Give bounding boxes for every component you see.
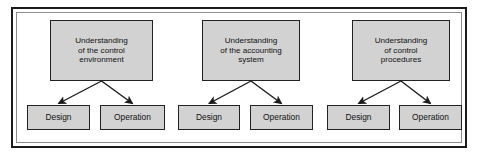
node-label: Operation — [412, 113, 449, 123]
node-label: Design — [196, 113, 222, 123]
node-control-procedures-operation: Operation — [399, 105, 462, 130]
node-label: Operation — [263, 113, 300, 123]
node-label: Understanding of control procedures — [375, 36, 428, 65]
node-label: Understanding of the control environment — [75, 36, 128, 65]
node-control-procedures-design: Design — [327, 105, 390, 130]
node-accounting-system-design: Design — [178, 105, 240, 130]
node-control-environment-design: Design — [27, 105, 90, 130]
node-control-procedures: Understanding of control procedures — [352, 20, 450, 81]
node-label: Design — [45, 113, 71, 123]
node-label: Understanding of the accounting system — [220, 36, 282, 65]
diagram-root: Understanding of the control environment… — [0, 0, 480, 157]
node-control-environment: Understanding of the control environment — [50, 20, 153, 81]
node-accounting-system-operation: Operation — [250, 105, 313, 130]
node-label: Operation — [114, 113, 151, 123]
node-accounting-system: Understanding of the accounting system — [202, 20, 300, 81]
node-control-environment-operation: Operation — [100, 105, 165, 130]
node-label: Design — [345, 113, 371, 123]
